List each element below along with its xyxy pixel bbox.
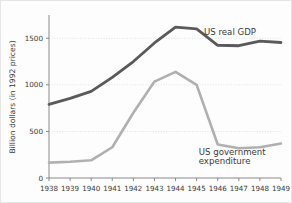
y-tick-labels: 050010001500 <box>25 34 44 183</box>
x-tick-label: 1943 <box>145 184 163 193</box>
y-axis-title: Billion dollars (in 1992 prices) <box>8 40 17 153</box>
gdp-series-label: US real GDP <box>204 27 256 37</box>
line-chart: 050010001500 193819391940194119421943194… <box>1 1 292 203</box>
x-tick-label: 1942 <box>124 184 142 193</box>
gov-series-label-line2: expenditure <box>199 156 251 166</box>
y-tick-label: 500 <box>29 127 43 136</box>
x-tick-label: 1947 <box>230 184 248 193</box>
x-tick-label: 1944 <box>167 184 186 193</box>
x-tick-label: 1940 <box>82 184 101 193</box>
x-tick-label: 1939 <box>61 184 80 193</box>
gov-series-label-line1: US government <box>199 147 266 157</box>
x-tick-label: 1938 <box>40 184 59 193</box>
x-tick-label: 1946 <box>209 184 228 193</box>
y-tick-label: 1500 <box>25 34 44 43</box>
chart-figure: 050010001500 193819391940194119421943194… <box>0 0 292 203</box>
x-tick-label: 1945 <box>188 184 206 193</box>
x-tick-label: 1941 <box>103 184 121 193</box>
y-tick-label: 1000 <box>25 80 44 89</box>
x-tick-label: 1949 <box>272 184 291 193</box>
x-tick-labels: 1938193919401941194219431944194519461947… <box>40 184 291 193</box>
y-tick-label: 0 <box>38 174 43 183</box>
x-tick-label: 1948 <box>251 184 270 193</box>
